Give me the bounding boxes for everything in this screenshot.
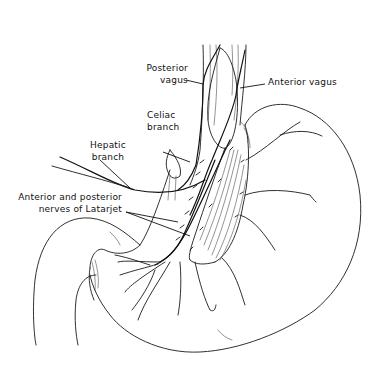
label-posterior-vagus: Posterior vagus bbox=[132, 62, 188, 86]
label-hepatic-branch: Hepatic branch bbox=[86, 139, 130, 163]
stomach-illustration bbox=[0, 0, 377, 369]
esophagus bbox=[190, 45, 246, 185]
label-nerves-of-latarjet: Anterior and posterior nerves of Latarje… bbox=[14, 191, 122, 215]
anatomical-diagram: Posterior vagus Anterior vagus Celiac br… bbox=[0, 0, 377, 369]
anterior-vagus-nerve bbox=[190, 50, 245, 215]
stomach bbox=[33, 104, 360, 352]
latarjet-nerve-anterior bbox=[155, 140, 230, 265]
label-anterior-vagus: Anterior vagus bbox=[268, 76, 337, 88]
label-celiac-branch: Celiac branch bbox=[147, 109, 180, 133]
